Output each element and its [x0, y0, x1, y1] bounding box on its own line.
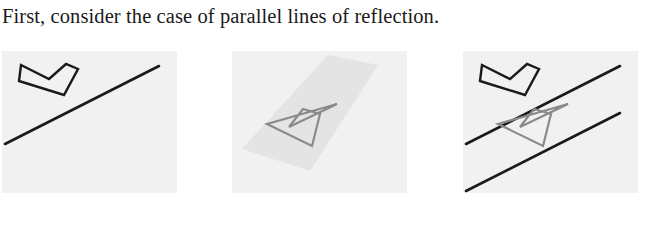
panel-3-canvas — [463, 51, 638, 193]
panel-1-shapes — [19, 64, 78, 95]
panel-1-canvas — [2, 51, 177, 193]
figure-caption: First, consider the case of parallel lin… — [2, 2, 642, 32]
figure-page: First, consider the case of parallel lin… — [0, 0, 646, 242]
mirror-line-1 — [5, 66, 159, 144]
figure-panel-2 — [232, 51, 407, 193]
figure-panel-1 — [2, 51, 177, 193]
sweep-wedge — [242, 55, 378, 171]
reflected-dart — [498, 104, 568, 146]
panel-3-shapes — [480, 64, 568, 146]
original-dart — [480, 64, 539, 95]
figure-strip — [0, 40, 646, 242]
mirror-line-1 — [466, 66, 620, 144]
original-dart — [19, 64, 78, 95]
mirror-line-2 — [466, 113, 620, 191]
panel-1-mirror-lines — [5, 66, 159, 144]
panel-2-regions — [242, 55, 378, 171]
panel-2-canvas — [232, 51, 407, 193]
figure-panel-3 — [463, 51, 638, 193]
